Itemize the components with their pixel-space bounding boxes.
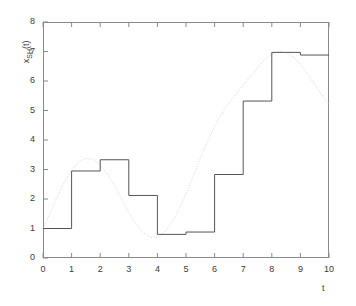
y-tick-label: 1 [13,224,35,233]
y-tick-label: 4 [13,135,35,144]
x-tick-label: 1 [61,265,83,274]
x-tick-label: 3 [118,265,140,274]
x-tick-label: 7 [232,265,254,274]
x-tick-label: 6 [204,265,226,274]
x-tick-label: 5 [175,265,197,274]
plot-area [43,22,329,258]
y-tick-label: 0 [13,253,35,262]
x-tick-label: 0 [32,265,54,274]
y-axis-title: xSH(t) [21,17,33,87]
x-tick-label: 9 [289,265,311,274]
y-tick-label: 3 [13,165,35,174]
y-axis-title-main: x [21,59,31,64]
x-tick-label: 10 [318,265,340,274]
x-tick-label: 8 [261,265,283,274]
x-tick-label: 2 [89,265,111,274]
y-tick-label: 5 [13,106,35,115]
y-axis-title-suffix: (t) [21,41,31,50]
y-axis-title-subscript: SH [26,49,33,59]
chart-figure: 012345678 012345678910 xSH(t) t [0,0,356,306]
x-axis-title: t [322,283,325,293]
y-tick-label: 2 [13,194,35,203]
x-tick-label: 4 [146,265,168,274]
